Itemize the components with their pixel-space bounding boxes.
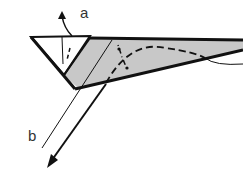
fold-dot xyxy=(125,66,128,69)
top-edge xyxy=(90,38,243,40)
arrow-b-head-icon xyxy=(47,154,58,168)
label-b: b xyxy=(28,127,36,144)
label-a: a xyxy=(80,4,89,21)
arrow-a-head-icon xyxy=(58,11,66,19)
arrow-b xyxy=(52,84,106,160)
fold-dot xyxy=(117,47,120,50)
origami-diagram: a b xyxy=(0,0,243,179)
